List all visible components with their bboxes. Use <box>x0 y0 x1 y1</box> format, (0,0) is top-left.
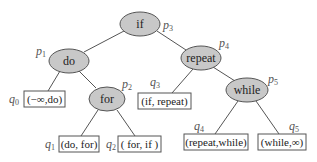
node-label-p1: p1 <box>35 44 46 59</box>
edge-do-q0 <box>48 71 60 91</box>
node-label-p5: p5 <box>267 72 278 87</box>
bst-diagram: if p3 do p1 repeat p4 for p2 while p5 (−… <box>0 0 317 162</box>
node-label-p4: p4 <box>218 36 229 51</box>
node-label-p2: p2 <box>121 77 132 92</box>
leaf-q2: ( for, if ) q2 <box>106 136 161 152</box>
edge-if-repeat <box>157 31 186 50</box>
node-label-p3: p3 <box>162 18 173 33</box>
node-while: while p5 <box>226 72 278 102</box>
edge-for-q1 <box>81 110 98 136</box>
leaf-label-q5: q5 <box>289 119 299 134</box>
leaf-q0: (−∞,do) q0 <box>9 91 65 107</box>
edge-while-q5 <box>256 101 279 134</box>
edge-while-q4 <box>215 101 238 134</box>
leaf-label-q1: q1 <box>45 137 55 152</box>
edge-for-q2 <box>117 110 135 136</box>
leaf-interval: (−∞,do) <box>27 93 62 106</box>
node-repeat: repeat p4 <box>181 36 229 70</box>
node-key: if <box>136 17 143 31</box>
edge-do-for <box>79 71 96 88</box>
node-for: for p2 <box>89 77 132 111</box>
leaf-label-q2: q2 <box>106 137 116 152</box>
edge-repeat-while <box>213 67 235 81</box>
leaf-q5: (while,∞) q5 <box>258 119 306 150</box>
node-key: for <box>100 92 114 106</box>
node-do: do p1 <box>35 44 89 73</box>
leaf-label-q4: q4 <box>194 119 204 134</box>
leaf-interval: (while,∞) <box>261 136 304 149</box>
leaf-q4: (repeat,while) q4 <box>184 119 248 150</box>
leaf-interval: (do, for) <box>61 138 98 151</box>
leaf-label-q0: q0 <box>9 92 19 107</box>
leaf-interval: (if, repeat) <box>141 95 188 108</box>
node-if: if p3 <box>120 12 173 36</box>
edge-repeat-q3 <box>172 69 193 93</box>
leaf-interval: ( for, if ) <box>121 138 159 151</box>
node-key: while <box>234 83 261 97</box>
leaf-label-q3: q3 <box>150 75 160 90</box>
leaf-q1: (do, for) q1 <box>45 136 99 152</box>
node-key: do <box>63 54 75 68</box>
leaf-interval: (repeat,while) <box>185 136 247 149</box>
edge-if-do <box>84 31 124 52</box>
node-key: repeat <box>186 51 216 65</box>
